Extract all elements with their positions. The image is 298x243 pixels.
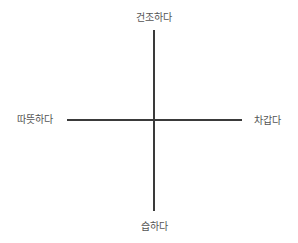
axis-label-right: 차갑다: [254, 115, 281, 127]
horizontal-axis-line: [67, 119, 242, 121]
axis-label-left: 따뜻하다: [17, 114, 53, 126]
axis-label-top: 건조하다: [136, 12, 172, 24]
quadrant-diagram: 건조하다 습하다 따뜻하다 차갑다: [0, 0, 298, 243]
vertical-axis-line: [153, 30, 155, 211]
axis-label-bottom: 습하다: [141, 221, 168, 233]
